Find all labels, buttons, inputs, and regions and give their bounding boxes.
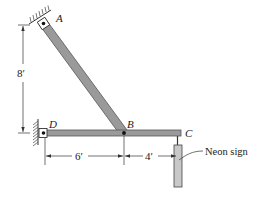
member-dc <box>43 130 181 136</box>
neon-sign <box>174 136 182 187</box>
dimension-6ft: 6′ <box>75 150 83 162</box>
callout-leader <box>179 151 203 160</box>
dimension-8ft: 8′ <box>17 67 25 79</box>
label-b: B <box>127 118 134 130</box>
vertical-dimension <box>18 25 30 133</box>
callout-neon-sign: Neon sign <box>205 146 249 157</box>
dimension-4ft: 4′ <box>145 150 153 162</box>
label-c: C <box>185 127 193 139</box>
pin-b <box>122 131 126 135</box>
support-d-wall <box>33 119 38 146</box>
pin-d <box>39 129 47 138</box>
label-d: D <box>48 118 57 130</box>
truss-diagram: A D B C 8′ 6′ 4′ Neon sign <box>0 0 264 198</box>
label-a: A <box>55 12 63 24</box>
horizontal-dimension <box>45 136 176 165</box>
